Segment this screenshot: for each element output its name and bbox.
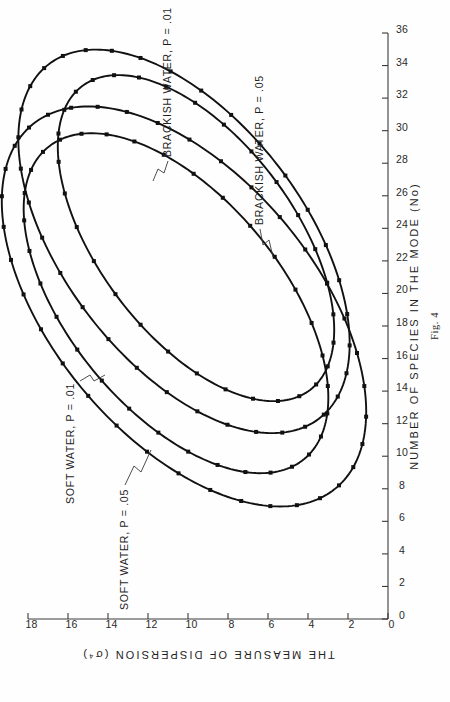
data-point xyxy=(239,499,243,503)
x-tick-label: 12 xyxy=(396,414,408,426)
data-point xyxy=(125,110,129,114)
figure-caption: Fig. 4 xyxy=(429,312,440,340)
data-point xyxy=(62,108,66,112)
data-point xyxy=(251,397,255,401)
data-point xyxy=(46,113,50,117)
y-tick-label: 14 xyxy=(105,618,117,630)
confidence-ellipses xyxy=(2,50,366,507)
data-point xyxy=(345,312,349,316)
y-tick-label: 6 xyxy=(268,618,274,630)
data-point xyxy=(91,78,95,82)
data-point xyxy=(22,292,26,296)
data-point xyxy=(192,172,196,176)
data-point xyxy=(139,56,143,60)
data-point xyxy=(69,106,73,110)
data-point xyxy=(336,395,340,399)
data-point xyxy=(61,361,65,365)
data-point xyxy=(348,343,352,347)
data-point xyxy=(342,317,346,321)
data-point xyxy=(4,167,8,171)
y-tick-label: 12 xyxy=(145,618,157,630)
data-point xyxy=(313,247,317,251)
data-point xyxy=(283,174,287,178)
data-point xyxy=(27,200,31,204)
y-tick-label: 8 xyxy=(228,618,234,630)
data-point xyxy=(331,312,335,316)
data-point xyxy=(55,315,59,319)
data-point xyxy=(29,168,33,172)
data-point xyxy=(156,121,160,125)
data-point xyxy=(364,415,368,419)
data-point xyxy=(165,390,169,394)
data-point xyxy=(248,224,252,228)
data-point xyxy=(28,84,32,88)
x-tick-label: 36 xyxy=(396,23,408,35)
data-point xyxy=(195,409,199,413)
data-point xyxy=(319,435,323,439)
data-point xyxy=(290,465,294,469)
data-point xyxy=(177,471,181,475)
data-point xyxy=(224,387,228,391)
rotated-figure-plate: 024681012141618202224262830323436 024681… xyxy=(10,21,440,681)
data-point xyxy=(42,66,46,70)
y-tick-label: 18 xyxy=(25,618,37,630)
data-point xyxy=(280,431,284,435)
data-point xyxy=(27,126,31,130)
x-tick-label: 14 xyxy=(396,381,408,393)
data-point xyxy=(79,132,83,136)
data-point xyxy=(145,450,149,454)
data-point xyxy=(351,465,355,469)
data-point xyxy=(337,278,341,282)
data-point xyxy=(268,504,272,508)
data-point xyxy=(74,90,78,94)
data-point xyxy=(86,394,90,398)
data-point xyxy=(166,350,170,354)
x-axis-ticks: 024681012141618202224262830323436 xyxy=(382,23,408,621)
data-point xyxy=(135,366,139,370)
data-point xyxy=(269,471,273,475)
data-point xyxy=(344,371,348,375)
data-point xyxy=(9,258,13,262)
x-tick-label: 22 xyxy=(396,251,408,263)
data-point xyxy=(20,107,24,111)
data-point xyxy=(41,150,45,154)
data-point xyxy=(219,159,223,163)
x-tick-label: 18 xyxy=(396,316,408,328)
data-point xyxy=(105,132,109,136)
data-point-markers xyxy=(0,48,368,508)
data-point xyxy=(325,411,329,415)
data-point xyxy=(84,48,88,52)
data-point xyxy=(96,105,100,109)
data-point xyxy=(195,371,199,375)
curve-label-soft-01: SOFT WATER, P = .01 xyxy=(64,383,76,504)
data-point xyxy=(296,213,300,217)
data-point xyxy=(222,123,226,127)
data-point xyxy=(63,191,67,195)
x-tick-label: 10 xyxy=(396,446,408,458)
y-tick-label: 4 xyxy=(308,618,314,630)
data-point xyxy=(139,323,143,327)
x-tick-label: 2 xyxy=(399,576,405,588)
data-point xyxy=(318,496,322,500)
y-tick-label: 10 xyxy=(185,618,197,630)
data-point xyxy=(106,337,110,341)
curve-label-brackish-01: BRACKISH WATER, P = .01 xyxy=(161,7,173,157)
data-point xyxy=(92,259,96,263)
data-point xyxy=(186,450,190,454)
x-tick-label: 6 xyxy=(399,511,405,523)
data-point xyxy=(58,271,62,275)
data-point xyxy=(303,425,307,429)
data-point xyxy=(324,243,328,247)
data-point xyxy=(27,249,31,253)
data-point xyxy=(275,180,279,184)
data-point xyxy=(243,470,247,474)
data-point xyxy=(38,281,42,285)
data-point xyxy=(362,384,366,388)
data-point xyxy=(355,351,359,355)
data-point xyxy=(75,225,79,229)
curve-label-brackish-05: BRACKISH WATER, P = .05 xyxy=(253,75,265,225)
data-point xyxy=(137,76,141,80)
data-point xyxy=(314,382,318,386)
data-point xyxy=(100,379,104,383)
data-point xyxy=(360,442,364,446)
